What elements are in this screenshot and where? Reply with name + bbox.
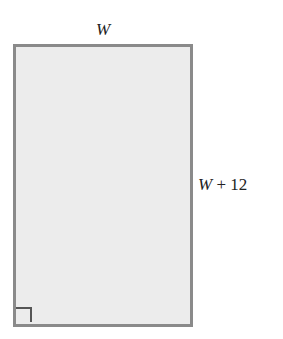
length-label: W + 12 (198, 175, 247, 195)
right-angle-icon (16, 307, 32, 322)
width-label: W (96, 20, 110, 40)
rectangle (13, 44, 193, 327)
